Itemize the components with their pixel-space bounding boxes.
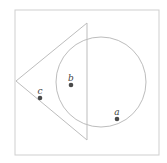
point-a-label: a xyxy=(114,107,119,117)
point-a: a xyxy=(114,107,119,121)
point-b-label: b xyxy=(68,73,74,83)
point-c-label: c xyxy=(37,86,42,96)
point-b-dot xyxy=(69,83,74,88)
venn-diagram: a b c xyxy=(0,0,167,163)
point-c: c xyxy=(37,86,42,100)
point-c-dot xyxy=(38,96,43,101)
diagram-svg: a b c xyxy=(0,0,167,163)
triangle-set xyxy=(16,23,87,140)
point-a-dot xyxy=(115,117,120,122)
point-b: b xyxy=(68,73,74,87)
